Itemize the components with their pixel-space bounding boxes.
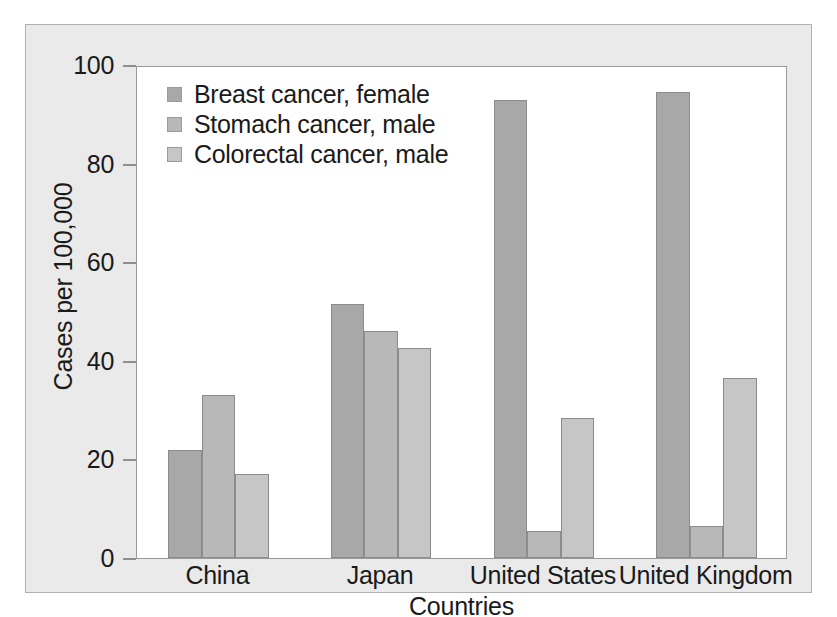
legend-item: Stomach cancer, male	[167, 109, 497, 139]
legend-item-label: Breast cancer, female	[194, 80, 430, 109]
y-axis-tick-mark	[123, 65, 136, 67]
y-axis-tick-label: 100	[34, 51, 114, 80]
plot-frame: Breast cancer, femaleStomach cancer, mal…	[136, 66, 787, 559]
chart-legend: Breast cancer, femaleStomach cancer, mal…	[167, 79, 497, 169]
bar	[494, 100, 528, 558]
bar	[235, 474, 269, 558]
x-axis-title: Countries	[136, 592, 787, 617]
legend-item: Breast cancer, female	[167, 79, 497, 109]
bar	[202, 395, 236, 558]
y-axis-title: Cases per 100,000	[49, 117, 78, 457]
bar	[656, 92, 690, 558]
x-axis-tick-label: United Kingdom	[586, 561, 826, 590]
chart-figure: 020406080100 Cases per 100,000 Breast ca…	[25, 24, 812, 593]
legend-item-label: Colorectal cancer, male	[194, 140, 448, 169]
legend-swatch-icon	[167, 147, 182, 162]
y-axis: 020406080100	[26, 66, 136, 559]
legend-item: Colorectal cancer, male	[167, 139, 497, 169]
bar	[561, 418, 595, 559]
bar	[331, 304, 365, 558]
y-axis-tick-mark	[123, 459, 136, 461]
legend-item-label: Stomach cancer, male	[194, 110, 435, 139]
y-axis-tick-mark	[123, 361, 136, 363]
y-axis-tick-mark	[123, 558, 136, 560]
x-axis: ChinaJapanUnited StatesUnited Kingdom	[136, 561, 787, 595]
legend-swatch-icon	[167, 87, 182, 102]
bar	[527, 531, 561, 558]
y-axis-tick-mark	[123, 262, 136, 264]
y-axis-tick-mark	[123, 164, 136, 166]
bar	[364, 331, 398, 558]
bar	[168, 450, 202, 558]
bar	[690, 526, 724, 558]
legend-swatch-icon	[167, 117, 182, 132]
bar	[398, 348, 432, 558]
bar	[723, 378, 757, 558]
